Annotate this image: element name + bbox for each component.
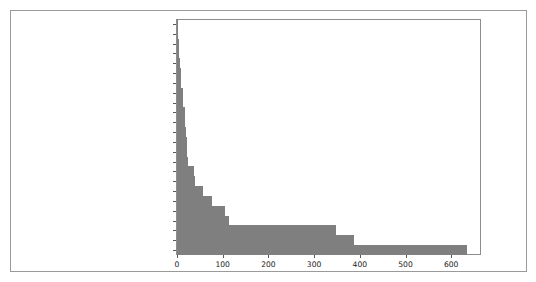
- y-axis-tick: [173, 201, 176, 202]
- bar-fill: [177, 186, 203, 196]
- y-axis-tick: [173, 221, 176, 222]
- bar-fill: [177, 166, 194, 176]
- bar-fill: [177, 225, 336, 235]
- y-axis-tick: [173, 152, 176, 153]
- bar: [177, 157, 188, 167]
- x-axis-tick: [406, 255, 407, 258]
- bar: [177, 19, 178, 29]
- y-axis-tick: [173, 73, 176, 74]
- bar-fill: [177, 19, 178, 29]
- x-axis-tick: [177, 255, 178, 258]
- bar: [177, 225, 336, 235]
- bar-fill: [177, 127, 186, 137]
- bar: [177, 216, 229, 226]
- bar-fill: [177, 235, 354, 245]
- bar-fill: [177, 147, 187, 157]
- chart-figure: Convention and EntertainmentMayor's Offi…: [0, 0, 536, 282]
- bar-fill: [177, 176, 195, 186]
- y-axis-tick: [173, 191, 176, 192]
- bar-fill: [177, 58, 180, 68]
- x-axis-tick-label: 300: [307, 260, 322, 269]
- bar-fill: [177, 206, 225, 216]
- y-axis-tick: [173, 181, 176, 182]
- bar-fill: [177, 157, 188, 167]
- bar-fill: [177, 98, 183, 108]
- y-axis-tick: [173, 132, 176, 133]
- x-axis-tick-label: 200: [261, 260, 276, 269]
- bar: [177, 78, 181, 88]
- bar-fill: [177, 68, 181, 78]
- bar-fill: [177, 78, 181, 88]
- y-axis-tick: [173, 250, 176, 251]
- x-axis-tick: [451, 255, 452, 258]
- y-axis-tick: [173, 112, 176, 113]
- x-axis-tick-label: 100: [215, 260, 230, 269]
- x-axis-tick: [223, 255, 224, 258]
- bar: [177, 68, 181, 78]
- bar: [177, 186, 203, 196]
- y-axis-tick: [173, 53, 176, 54]
- y-axis-tick: [173, 211, 176, 212]
- y-axis-tick: [173, 24, 176, 25]
- bar-fill: [177, 245, 467, 255]
- y-axis-tick: [173, 103, 176, 104]
- bar: [177, 196, 212, 206]
- bar: [177, 48, 179, 58]
- bar-fill: [177, 29, 178, 39]
- y-axis-tick: [173, 171, 176, 172]
- y-axis-tick: [173, 142, 176, 143]
- y-axis-tick: [173, 34, 176, 35]
- bar: [177, 137, 187, 147]
- x-axis-tick-label: 400: [353, 260, 368, 269]
- y-axis-tick: [173, 240, 176, 241]
- bar-fill: [177, 137, 187, 147]
- bar: [177, 117, 185, 127]
- bar: [177, 245, 467, 255]
- x-axis-tick-label: 600: [444, 260, 459, 269]
- bar: [177, 127, 186, 137]
- y-axis-tick: [173, 44, 176, 45]
- bar: [177, 58, 180, 68]
- bar: [177, 29, 178, 39]
- bar-fill: [177, 107, 185, 117]
- x-axis-tick: [314, 255, 315, 258]
- bar: [177, 166, 194, 176]
- bar: [177, 39, 179, 49]
- y-axis-tick: [173, 122, 176, 123]
- bar-fill: [177, 39, 179, 49]
- y-axis-tick: [173, 83, 176, 84]
- x-axis-tick: [360, 255, 361, 258]
- bar-fill: [177, 48, 179, 58]
- bar: [177, 147, 187, 157]
- x-axis-tick: [268, 255, 269, 258]
- x-axis-tick-label: 0: [175, 260, 180, 269]
- bar: [177, 176, 195, 186]
- bar: [177, 98, 183, 108]
- bar-fill: [177, 196, 212, 206]
- bar-fill: [177, 117, 185, 127]
- bar: [177, 235, 354, 245]
- y-axis-tick: [173, 93, 176, 94]
- bar: [177, 206, 225, 216]
- bar-fill: [177, 216, 229, 226]
- x-axis-tick-label: 500: [398, 260, 413, 269]
- bar: [177, 107, 185, 117]
- bar-fill: [177, 88, 183, 98]
- y-axis-tick: [173, 63, 176, 64]
- y-axis-tick: [173, 162, 176, 163]
- plot-wrapper: Convention and EntertainmentMayor's Offi…: [176, 19, 481, 255]
- bar: [177, 88, 183, 98]
- y-axis-tick: [173, 230, 176, 231]
